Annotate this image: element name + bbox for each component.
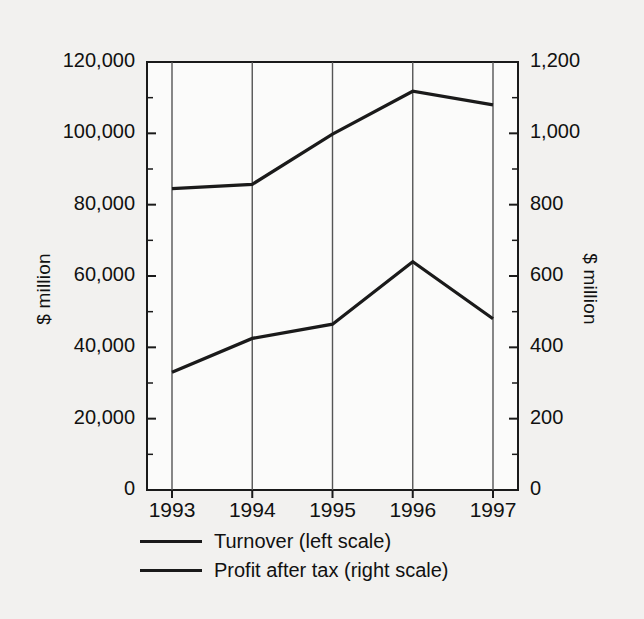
legend: Turnover (left scale) Profit after tax (… — [140, 527, 540, 585]
legend-label-turnover: Turnover (left scale) — [214, 530, 391, 553]
chart-figure: $ million $ million 020,00040,00060,0008… — [0, 0, 644, 619]
legend-label-profit: Profit after tax (right scale) — [214, 559, 449, 582]
legend-item-profit: Profit after tax (right scale) — [140, 556, 540, 585]
legend-line-icon-turnover — [140, 540, 202, 543]
legend-line-icon-profit — [140, 569, 202, 572]
legend-item-turnover: Turnover (left scale) — [140, 527, 540, 556]
